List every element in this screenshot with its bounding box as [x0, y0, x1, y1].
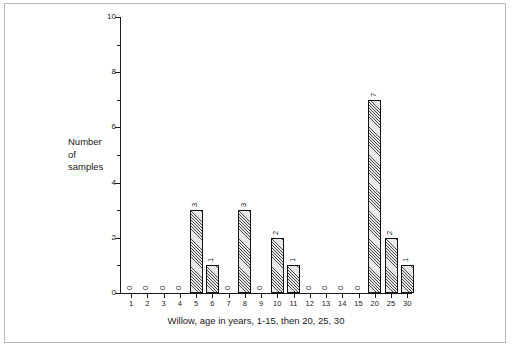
- bar-value-label: 0: [142, 286, 150, 290]
- y-minor-tick-7: [117, 100, 120, 101]
- bar-value-label: 2: [272, 231, 280, 235]
- y-axis-title: Number of samples: [68, 136, 103, 174]
- y-axis-line: [120, 17, 121, 294]
- bar-value-label: 2: [386, 231, 394, 235]
- x-tick-30: [407, 294, 408, 298]
- bar-value-label: 0: [305, 286, 313, 290]
- x-tick-11: [294, 294, 295, 298]
- y-tick-label-2: 2: [96, 234, 116, 242]
- bar: [238, 210, 251, 293]
- bar-value-label: 0: [354, 286, 362, 290]
- x-tick-25: [391, 294, 392, 298]
- x-tick-3: [164, 294, 165, 298]
- x-tick-20: [375, 294, 376, 298]
- x-tick-5: [196, 294, 197, 298]
- bar: [385, 238, 398, 293]
- bar: [287, 265, 300, 293]
- x-tick-6: [212, 294, 213, 298]
- bar-value-label: 7: [370, 93, 378, 97]
- y-tick-label-6: 6: [96, 123, 116, 131]
- bar-value-label: 1: [289, 258, 297, 262]
- x-tick-13: [326, 294, 327, 298]
- bar-value-label: 3: [191, 203, 199, 207]
- chart-page: 0246810 123456789101112131415202530 0000…: [0, 0, 512, 348]
- bar: [368, 100, 381, 293]
- bar-value-label: 0: [175, 286, 183, 290]
- y-tick-label-4: 4: [96, 179, 116, 187]
- y-axis-title-line-1: Number: [68, 136, 103, 149]
- bar-value-label: 0: [321, 286, 329, 290]
- bar-chart: 0246810 123456789101112131415202530 0000…: [0, 0, 512, 348]
- x-tick-12: [310, 294, 311, 298]
- bar: [206, 265, 219, 293]
- bar: [190, 210, 203, 293]
- bar-value-label: 1: [402, 258, 410, 262]
- x-tick-9: [261, 294, 262, 298]
- bar: [401, 265, 414, 293]
- x-tick-2: [147, 294, 148, 298]
- y-tick-label-10: 10: [96, 13, 116, 21]
- y-minor-tick-1: [117, 265, 120, 266]
- bar-value-label: 0: [159, 286, 167, 290]
- y-axis-title-line-3: samples: [68, 161, 103, 174]
- y-minor-tick-3: [117, 210, 120, 211]
- y-tick-label-0: 0: [96, 289, 116, 297]
- x-tick-4: [180, 294, 181, 298]
- x-tick-label-30: 30: [397, 299, 417, 308]
- y-axis-title-line-2: of: [68, 149, 103, 162]
- x-tick-10: [277, 294, 278, 298]
- x-tick-14: [342, 294, 343, 298]
- bar: [271, 238, 284, 293]
- x-tick-7: [229, 294, 230, 298]
- x-tick-8: [245, 294, 246, 298]
- y-tick-label-8: 8: [96, 68, 116, 76]
- bar-value-label: 0: [337, 286, 345, 290]
- bar-value-label: 1: [207, 258, 215, 262]
- x-tick-15: [359, 294, 360, 298]
- bar-value-label: 0: [126, 286, 134, 290]
- bar-value-label: 0: [256, 286, 264, 290]
- bar-value-label: 3: [240, 203, 248, 207]
- bar-value-label: 0: [224, 286, 232, 290]
- y-minor-tick-9: [117, 45, 120, 46]
- y-minor-tick-5: [117, 155, 120, 156]
- x-tick-1: [131, 294, 132, 298]
- x-axis-caption: Willow, age in years, 1-15, then 20, 25,…: [0, 315, 512, 327]
